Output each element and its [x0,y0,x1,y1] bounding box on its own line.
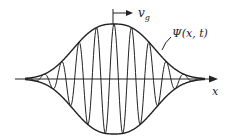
velocity-label: vg [138,6,150,22]
x-axis-label: x [212,85,219,98]
x-axis-arrowhead-icon [209,76,218,83]
wavefunction-leader-line [162,37,171,50]
wave-packet-diagram: vg Ψ(x, t) x [0,0,234,140]
velocity-arrowhead-icon [126,10,133,16]
wavefunction-label: Ψ(x, t) [172,27,208,40]
